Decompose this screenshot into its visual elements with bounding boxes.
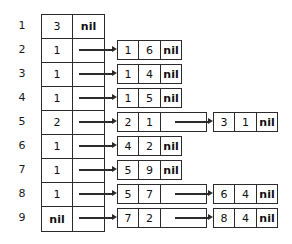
table-row: 2	[42, 111, 104, 135]
node-field-b: 2	[139, 209, 161, 227]
node-field-b: 9	[139, 161, 161, 179]
list-node: 15nil	[117, 88, 182, 108]
head-connector-line	[79, 169, 112, 170]
node-field-b: 1	[139, 113, 161, 131]
node-next-pointer: nil	[161, 161, 181, 179]
node-field-b: 2	[139, 137, 161, 155]
list-node: 14nil	[117, 64, 182, 84]
node-field-a: 5	[118, 161, 139, 179]
head-connector-line	[79, 193, 112, 194]
head-pointer-cell	[73, 207, 104, 231]
head-connector-line	[79, 97, 112, 98]
node-field-a: 1	[118, 89, 139, 107]
table-row: 1	[42, 159, 104, 183]
row-index-label: 7	[10, 158, 34, 182]
head-connector-line	[79, 145, 112, 146]
node-field-a: 3	[214, 113, 235, 131]
node-field-a: 1	[118, 41, 139, 59]
list-node: 42nil	[117, 136, 182, 156]
row-index-label: 1	[10, 14, 34, 38]
node-connector-line	[175, 193, 208, 194]
row-index-label: 2	[10, 38, 34, 62]
node-connector-line	[175, 217, 208, 218]
head-pointer-cell: nil	[73, 15, 104, 38]
node-next-pointer: nil	[257, 113, 277, 131]
row-index-label: 6	[10, 134, 34, 158]
node-field-a: 6	[214, 185, 235, 203]
table-row: 1	[42, 183, 104, 207]
node-field-b: 1	[235, 113, 257, 131]
node-field-a: 7	[118, 209, 139, 227]
node-field-b: 4	[235, 185, 257, 203]
row-index-label: 5	[10, 110, 34, 134]
linked-list-diagram: 1234567893nil1112111nil16nil14nil15nil21…	[0, 0, 292, 244]
head-key-cell: 1	[42, 183, 73, 206]
table-row: 1	[42, 87, 104, 111]
head-connector-line	[79, 73, 112, 74]
node-next-pointer: nil	[257, 209, 277, 227]
node-field-a: 8	[214, 209, 235, 227]
head-connector-line	[79, 49, 112, 50]
node-next-pointer: nil	[161, 65, 181, 83]
row-index-label: 8	[10, 182, 34, 206]
head-key-cell: 1	[42, 87, 73, 110]
list-node: 84nil	[213, 208, 278, 228]
node-next-pointer: nil	[161, 137, 181, 155]
node-next-pointer: nil	[161, 41, 181, 59]
row-index-label: 9	[10, 206, 34, 230]
node-field-b: 4	[139, 65, 161, 83]
list-node: 64nil	[213, 184, 278, 204]
row-index-label: 3	[10, 62, 34, 86]
node-field-b: 5	[139, 89, 161, 107]
node-connector-line	[175, 121, 208, 122]
node-field-a: 2	[118, 113, 139, 131]
table-row: nil	[42, 207, 104, 231]
node-field-b: 7	[139, 185, 161, 203]
table-row: 1	[42, 63, 104, 87]
head-key-cell: 1	[42, 39, 73, 62]
node-next-pointer: nil	[257, 185, 277, 203]
head-key-cell: 1	[42, 135, 73, 158]
table-row: 1	[42, 39, 104, 63]
head-key-cell: 2	[42, 111, 73, 134]
table-row: 1	[42, 135, 104, 159]
table-row: 3nil	[42, 15, 104, 39]
head-key-cell: 3	[42, 15, 73, 38]
head-key-cell: nil	[42, 207, 73, 231]
node-field-a: 1	[118, 65, 139, 83]
node-field-a: 5	[118, 185, 139, 203]
node-next-pointer: nil	[161, 89, 181, 107]
node-field-b: 4	[235, 209, 257, 227]
head-key-cell: 1	[42, 159, 73, 182]
head-table: 3nil1112111nil	[41, 14, 105, 232]
node-field-b: 6	[139, 41, 161, 59]
row-index-label: 4	[10, 86, 34, 110]
head-connector-line	[79, 121, 112, 122]
list-node: 31nil	[213, 112, 278, 132]
head-connector-line	[79, 217, 112, 218]
head-key-cell: 1	[42, 63, 73, 86]
node-field-a: 4	[118, 137, 139, 155]
list-node: 59nil	[117, 160, 182, 180]
list-node: 16nil	[117, 40, 182, 60]
